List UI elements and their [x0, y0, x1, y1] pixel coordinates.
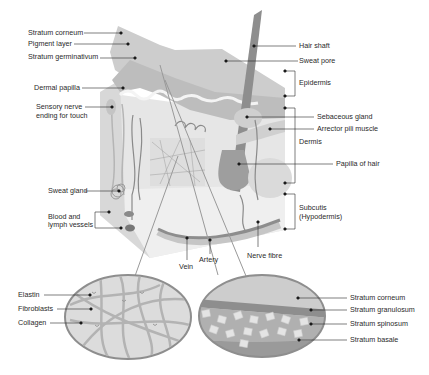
label-epidermis: Epidermis: [299, 79, 331, 87]
skin-block: [100, 10, 292, 276]
label-collagen: Collagen: [18, 319, 46, 327]
label-nerve-fibre: Nerve fibre: [247, 252, 282, 260]
label-dermal-papilla: Dermal papilla: [34, 84, 80, 92]
label-subcutis-2: (Hypodermis): [299, 213, 342, 221]
inset-left-graphic: [65, 275, 191, 360]
label-stratum-corneum: Stratum corneum: [28, 29, 83, 37]
label-elastin: Elastin: [18, 291, 40, 299]
label-papilla-of-hair: Papilla of hair: [336, 160, 380, 168]
label-hair-shaft: Hair shaft: [299, 42, 330, 50]
label-sweat-pore: Sweat pore: [299, 57, 335, 65]
label-stratum-germinativum: Stratum germinativum: [28, 53, 98, 61]
inset-right-graphic: [195, 270, 330, 365]
label-vein: Vein: [179, 263, 193, 271]
label-arrector-pili: Arrector pili muscle: [317, 125, 378, 133]
lymph-vessel: [124, 211, 134, 217]
label-pigment-layer: Pigment layer: [28, 40, 72, 48]
label-sweat-gland: Sweat gland: [48, 187, 88, 195]
label-inset-stratum-corneum: Stratum corneum: [350, 294, 405, 302]
label-stratum-granulosum: Stratum granulosum: [350, 306, 415, 314]
blood-vessel: [125, 225, 135, 232]
label-stratum-basale: Stratum basale: [350, 336, 398, 344]
label-blood-lymph-2: lymph vessels: [48, 221, 93, 229]
label-sebaceous-gland: Sebaceous gland: [317, 113, 373, 121]
label-sensory-nerve-2: ending for touch: [36, 112, 88, 120]
label-fibroblasts: Fibroblasts: [18, 305, 53, 313]
label-stratum-spinosum: Stratum spinosum: [350, 320, 408, 328]
hair-follicle: [218, 150, 250, 190]
label-dermis: Dermis: [299, 138, 322, 146]
label-artery: Artery: [199, 256, 218, 264]
